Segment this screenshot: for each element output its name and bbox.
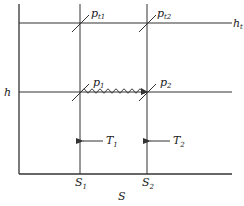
- p2-label: p2: [160, 76, 172, 90]
- h-axis-label: h: [4, 86, 11, 99]
- t1-label: T1: [106, 134, 118, 149]
- hs-diagram: pt1 pt2 ht p1 p2 h T1 T2 S1 S2 S: [0, 0, 244, 206]
- p1-label: p1: [93, 76, 105, 90]
- s1-label: S1: [75, 176, 87, 191]
- pt1-label: pt1: [91, 7, 105, 21]
- s2-label: S2: [142, 176, 155, 191]
- t2-label: T2: [173, 134, 185, 149]
- ht-label: ht: [233, 17, 243, 31]
- s-axis-label: S: [118, 190, 126, 203]
- pt2-label: pt2: [157, 7, 172, 21]
